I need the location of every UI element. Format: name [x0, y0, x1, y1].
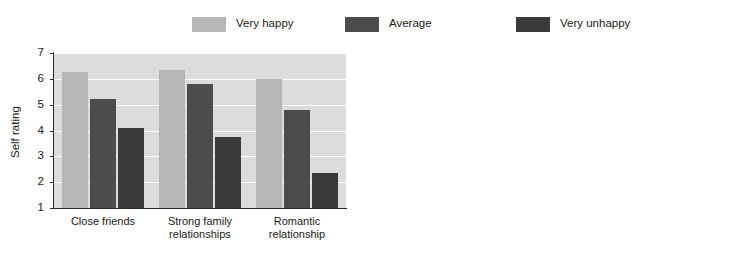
x-axis-label-line: Strong family — [168, 215, 232, 227]
y-axis-tick-label: 4 — [20, 125, 44, 137]
y-axis-tick-label: 1 — [20, 202, 44, 214]
x-axis-line-left — [53, 208, 347, 209]
x-axis-category-label: Romanticrelationship — [227, 215, 367, 241]
y-axis-tick — [50, 53, 54, 54]
chart-daily-activity: Daily activity score 02468Time spentalon… — [420, 0, 738, 256]
y-axis-tick-label: 7 — [20, 47, 44, 59]
bar — [187, 84, 213, 208]
y-axis-tick-label: 5 — [20, 99, 44, 111]
y-axis-tick-label: 6 — [20, 73, 44, 85]
bar — [118, 128, 144, 208]
bar — [215, 137, 241, 208]
x-axis-label-line: Romantic — [274, 215, 320, 227]
x-axis-label-line: relationship — [269, 228, 325, 240]
chart-self-rating: Self rating 1234567Close friendsStrong f… — [0, 0, 400, 256]
y-axis-tick — [50, 79, 54, 80]
gridline — [54, 79, 346, 80]
plot-area-self-rating — [54, 53, 346, 208]
bar — [256, 79, 282, 208]
y-axis-tick — [50, 131, 54, 132]
y-axis-tick-label: 3 — [20, 150, 44, 162]
gridline — [54, 53, 346, 54]
y-axis-tick-label: 2 — [20, 176, 44, 188]
bar — [159, 70, 185, 208]
y-axis-tick — [50, 182, 54, 183]
bar — [312, 173, 338, 208]
y-axis-tick — [50, 208, 54, 209]
x-axis-label-line: Close friends — [71, 215, 135, 227]
y-axis-tick — [50, 105, 54, 106]
y-axis-tick — [50, 156, 54, 157]
bar — [90, 99, 116, 208]
bar — [284, 110, 310, 208]
bar — [62, 72, 88, 208]
x-axis-label-line: relationships — [169, 228, 231, 240]
